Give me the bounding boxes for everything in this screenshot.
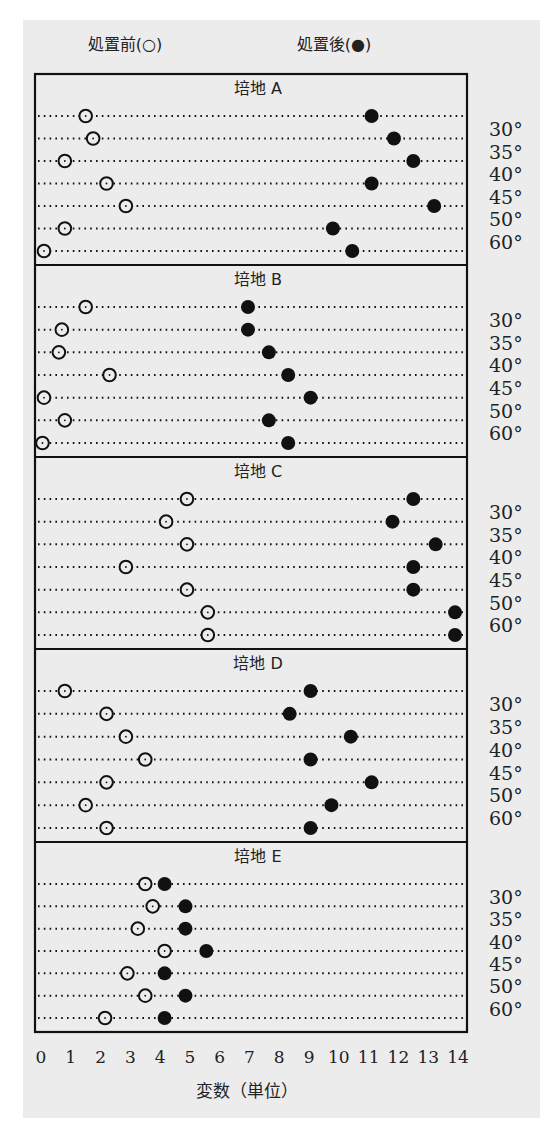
point-after [158, 1011, 172, 1025]
angle-label: 30° [489, 118, 523, 140]
point-before-center [137, 928, 139, 930]
angle-label: 30° [489, 693, 523, 715]
angle-label: 50° [489, 784, 523, 806]
point-after [241, 323, 255, 337]
point-after [304, 391, 318, 405]
point-before-center [144, 759, 146, 761]
point-before-center [125, 205, 127, 207]
point-after [448, 628, 462, 642]
point-before-center [61, 329, 63, 331]
panel-title: 培地 A [234, 79, 282, 98]
point-before-center [186, 498, 188, 500]
angle-label: 50° [489, 975, 523, 997]
point-after [344, 730, 358, 744]
angle-label: 40° [489, 546, 523, 568]
angle-label: 40° [489, 354, 523, 376]
angle-label: 60° [489, 807, 523, 829]
point-after [304, 684, 318, 698]
legend-before: 処置前(○) [88, 35, 162, 54]
point-after [158, 966, 172, 980]
angle-label: 45° [489, 762, 523, 784]
point-after [178, 989, 192, 1003]
point-after [365, 177, 379, 191]
point-before-center [186, 543, 188, 545]
x-tick-label: 8 [274, 1047, 285, 1067]
x-tick-label: 5 [185, 1047, 196, 1067]
point-before-center [64, 419, 66, 421]
angle-label: 45° [489, 953, 523, 975]
angle-label: 50° [489, 592, 523, 614]
point-before-center [125, 566, 127, 568]
angle-label: 50° [489, 400, 523, 422]
point-after [283, 707, 297, 721]
angle-label: 45° [489, 377, 523, 399]
point-after [199, 944, 213, 958]
angle-label: 35° [489, 332, 523, 354]
point-before-center [144, 995, 146, 997]
point-after [324, 798, 338, 812]
point-before-center [144, 883, 146, 885]
angle-label: 30° [489, 886, 523, 908]
point-before-center [43, 397, 45, 399]
point-after [262, 345, 276, 359]
angle-label: 45° [489, 569, 523, 591]
point-before-center [106, 713, 108, 715]
angle-label: 35° [489, 908, 523, 930]
point-before-center [207, 634, 209, 636]
x-tick-label: 14 [447, 1047, 469, 1067]
angle-label: 40° [489, 931, 523, 953]
point-after [406, 583, 420, 597]
point-before-center [106, 827, 108, 829]
point-after [178, 922, 192, 936]
angle-label: 40° [489, 739, 523, 761]
point-after [178, 899, 192, 913]
x-tick-label: 2 [95, 1047, 106, 1067]
x-axis-ticks: 01234567891011121314 [36, 1047, 469, 1067]
point-before-center [152, 905, 154, 907]
angle-label: 50° [489, 208, 523, 230]
point-after [326, 222, 340, 236]
x-tick-label: 3 [125, 1047, 136, 1067]
angle-label: 60° [489, 231, 523, 253]
point-before-center [85, 804, 87, 806]
x-tick-label: 7 [244, 1047, 255, 1067]
angle-label: 45° [489, 186, 523, 208]
angle-label: 60° [489, 614, 523, 636]
angle-label: 60° [489, 998, 523, 1020]
point-after [365, 775, 379, 789]
point-before-center [104, 1017, 106, 1019]
x-tick-label: 4 [155, 1047, 166, 1067]
point-after [281, 368, 295, 382]
x-tick-label: 11 [358, 1047, 380, 1067]
point-after [427, 199, 441, 213]
x-tick-label: 1 [65, 1047, 76, 1067]
point-after [281, 436, 295, 450]
point-after [345, 244, 359, 258]
point-before-center [85, 115, 87, 117]
point-before-center [43, 250, 45, 252]
panel-title: 培地 D [233, 654, 282, 673]
panel-title: 培地 C [234, 462, 282, 481]
point-before-center [165, 521, 167, 523]
point-before-center [106, 781, 108, 783]
panel-title: 培地 E [234, 847, 281, 866]
point-after [365, 109, 379, 123]
x-tick-label: 12 [388, 1047, 410, 1067]
point-before-center [58, 351, 60, 353]
x-axis-title: 変数（単位） [196, 1081, 298, 1101]
point-before-center [92, 138, 94, 140]
point-after [385, 515, 399, 529]
point-after [429, 537, 443, 551]
point-after [158, 877, 172, 891]
point-before-center [126, 972, 128, 974]
point-after [406, 492, 420, 506]
point-after [406, 154, 420, 168]
x-tick-label: 13 [417, 1047, 439, 1067]
point-before-center [85, 306, 87, 308]
x-tick-label: 6 [214, 1047, 225, 1067]
dot-plot-chart: 処置前(○) 処置後(●) 培地 A30°35°40°45°50°60°培地 B… [0, 0, 551, 1137]
point-before-center [42, 442, 44, 444]
point-before-center [106, 183, 108, 185]
x-tick-label: 9 [304, 1047, 315, 1067]
point-before-center [64, 690, 66, 692]
